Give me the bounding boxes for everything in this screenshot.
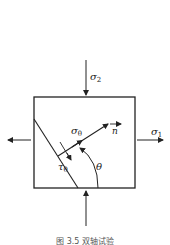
figure-caption: 图 3.5 双轴试验 — [56, 236, 114, 245]
sigma-theta-arrow — [72, 141, 82, 148]
sigma1-label: σ1 — [151, 126, 162, 139]
n-label: n — [112, 126, 118, 136]
sigma-theta-label: σθ — [71, 125, 82, 138]
tau-theta-label: τθ — [58, 161, 68, 174]
biaxial-stress-diagram: σ2 σ1 σθ n τθ θ 图 3.5 双轴试验 — [0, 0, 170, 245]
sigma2-label: σ2 — [90, 71, 101, 84]
tau-theta-arrow — [67, 153, 71, 160]
theta-label: θ — [96, 161, 102, 172]
